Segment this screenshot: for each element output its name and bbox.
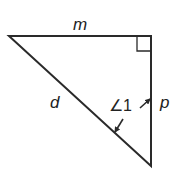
- label-m: m: [73, 15, 87, 34]
- angle-arrow-hypotenuse: [115, 119, 123, 132]
- right-angle-marker: [137, 36, 151, 51]
- triangle-diagram: m d p ∠1: [0, 0, 172, 180]
- label-p: p: [159, 93, 169, 112]
- angle-arrow-right: [140, 99, 150, 108]
- label-d: d: [50, 93, 60, 112]
- label-angle-1: ∠1: [109, 97, 132, 114]
